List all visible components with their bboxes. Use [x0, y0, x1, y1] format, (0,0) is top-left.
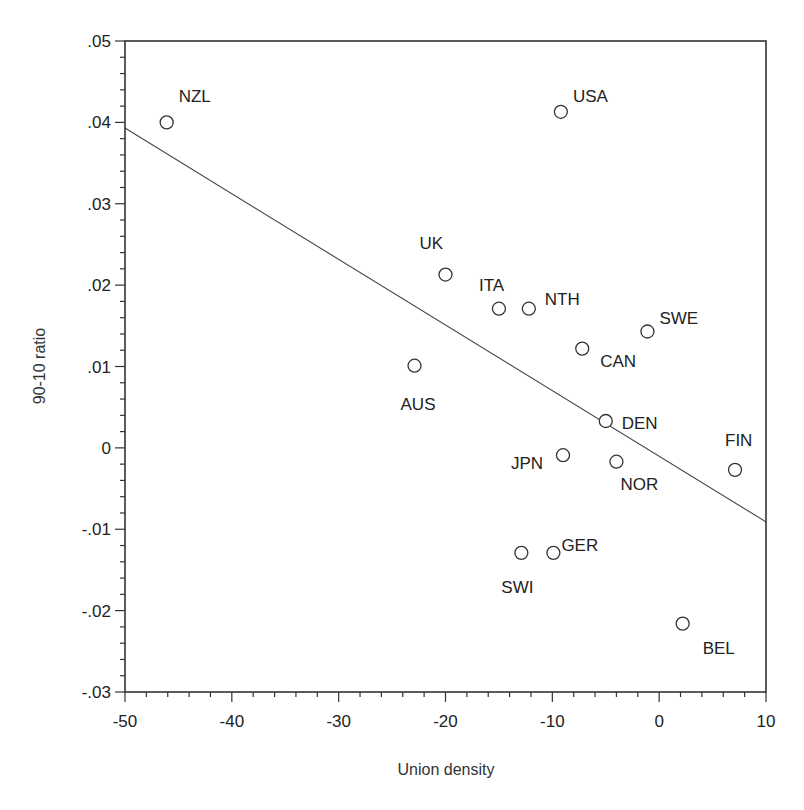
- circle-marker-icon: [439, 268, 452, 281]
- y-tick-label: .01: [87, 358, 111, 377]
- data-point-swi: SWI: [501, 546, 533, 597]
- x-tick-label: -20: [433, 712, 458, 731]
- data-point-bel: BEL: [676, 617, 735, 658]
- y-tick-label: -.02: [82, 602, 111, 621]
- circle-marker-icon: [641, 325, 654, 338]
- y-tick-label: .04: [87, 113, 111, 132]
- data-point-swe: SWE: [641, 309, 698, 339]
- y-tick-label: 0: [102, 439, 111, 458]
- y-axis-title: 90-10 ratio: [31, 328, 48, 405]
- circle-marker-icon: [492, 302, 505, 315]
- data-point-den: DEN: [599, 414, 657, 433]
- circle-marker-icon: [610, 455, 623, 468]
- point-label: BEL: [703, 639, 735, 658]
- circle-marker-icon: [547, 546, 560, 559]
- data-point-nor: NOR: [610, 455, 658, 494]
- point-label: UK: [420, 234, 444, 253]
- point-label: USA: [573, 87, 609, 106]
- circle-marker-icon: [408, 359, 421, 372]
- data-point-usa: USA: [554, 87, 608, 119]
- y-axis: .05.04.03.02.010-.01-.02-.03: [82, 32, 125, 702]
- data-point-ger: GER: [547, 536, 598, 560]
- data-point-ita: ITA: [479, 276, 506, 316]
- data-point-jpn: JPN: [511, 449, 570, 474]
- data-point-can: CAN: [576, 342, 636, 371]
- y-tick-label: -.01: [82, 520, 111, 539]
- point-label: NOR: [620, 475, 658, 494]
- circle-marker-icon: [557, 449, 570, 462]
- point-label: NTH: [545, 290, 580, 309]
- point-label: GER: [561, 536, 598, 555]
- x-tick-label: -50: [113, 712, 138, 731]
- y-tick-label: -.03: [82, 683, 111, 702]
- plot-frame: [125, 41, 766, 692]
- point-label: AUS: [401, 395, 436, 414]
- y-tick-label: .02: [87, 276, 111, 295]
- scatter-chart: -50-40-30-20-10010 .05.04.03.02.010-.01-…: [0, 0, 804, 810]
- y-tick-label: .05: [87, 32, 111, 51]
- point-label: DEN: [622, 414, 658, 433]
- x-tick-label: 0: [654, 712, 663, 731]
- x-tick-label: -10: [540, 712, 565, 731]
- x-axis-title: Union density: [398, 761, 495, 778]
- circle-marker-icon: [576, 342, 589, 355]
- circle-marker-icon: [515, 546, 528, 559]
- x-tick-label: -30: [326, 712, 351, 731]
- point-label: ITA: [479, 276, 505, 295]
- point-label: NZL: [179, 87, 211, 106]
- x-tick-label: -40: [220, 712, 245, 731]
- circle-marker-icon: [599, 415, 612, 428]
- circle-marker-icon: [522, 302, 535, 315]
- circle-marker-icon: [160, 116, 173, 129]
- data-point-nzl: NZL: [160, 87, 211, 129]
- point-label: JPN: [511, 454, 543, 473]
- data-points: NZLUSAUKITANTHSWECANAUSDENJPNNORFINSWIGE…: [160, 87, 752, 658]
- x-axis: -50-40-30-20-10010: [113, 692, 776, 731]
- circle-marker-icon: [729, 463, 742, 476]
- point-label: CAN: [600, 352, 636, 371]
- data-point-fin: FIN: [725, 431, 752, 477]
- y-tick-label: .03: [87, 195, 111, 214]
- x-tick-label: 10: [757, 712, 776, 731]
- point-label: SWI: [501, 578, 533, 597]
- point-label: FIN: [725, 431, 752, 450]
- point-label: SWE: [659, 309, 698, 328]
- data-point-aus: AUS: [401, 359, 436, 414]
- circle-marker-icon: [554, 105, 567, 118]
- data-point-nth: NTH: [522, 290, 579, 316]
- data-point-uk: UK: [420, 234, 453, 282]
- circle-marker-icon: [676, 617, 689, 630]
